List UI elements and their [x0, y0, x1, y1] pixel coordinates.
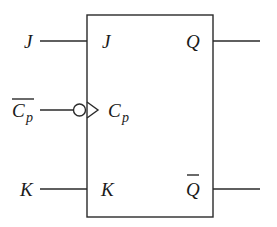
internal-label-k: K: [100, 179, 115, 200]
external-label-k: K: [19, 179, 34, 200]
internal-label-q-bar: Q: [186, 179, 200, 200]
jk-flip-flop-diagram: J J C p C p K K Q Q: [0, 0, 277, 227]
external-label-j: J: [24, 31, 34, 52]
output-q-bar: Q: [186, 175, 260, 200]
output-q: Q: [186, 31, 260, 52]
internal-label-q: Q: [186, 31, 200, 52]
external-subscript-clock: p: [25, 110, 33, 125]
negation-bubble-icon: [74, 104, 86, 116]
internal-subscript-clock: p: [121, 110, 129, 125]
input-k: K K: [19, 179, 115, 200]
internal-label-clock: C: [108, 100, 121, 121]
external-label-clock: C: [12, 100, 25, 121]
